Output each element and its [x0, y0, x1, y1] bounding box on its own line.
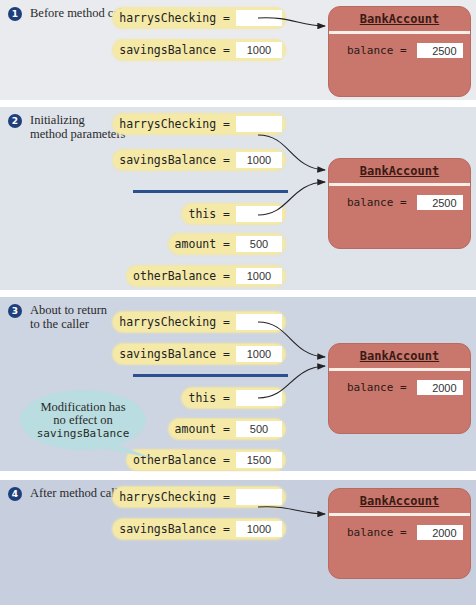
stack-frame-divider [133, 374, 288, 377]
var-value [236, 10, 282, 26]
var-name: otherBalance = [127, 269, 236, 283]
field-value: 2000 [417, 525, 463, 540]
step-3-caption: About to return to the caller [30, 303, 107, 331]
caption-line: method parameters [30, 127, 125, 141]
var-value [236, 206, 282, 222]
var-value: 1000 [236, 268, 282, 284]
field-name: balance = [347, 526, 407, 539]
object-title: BankAccount [329, 159, 470, 183]
bankaccount-object: BankAccount balance = 2500 [328, 6, 471, 97]
var-name: savingsBalance = [113, 522, 236, 536]
var-amount: amount = 500 [169, 419, 285, 439]
step-number-badge: 4 [8, 487, 22, 501]
callout-bubble: Modification has no effect on savingsBal… [20, 390, 146, 450]
var-name: harrysChecking = [113, 117, 236, 131]
object-title: BankAccount [329, 489, 470, 513]
var-value [236, 390, 282, 406]
var-value: 500 [236, 421, 282, 437]
field-name: balance = [347, 381, 407, 394]
var-otherBalance: otherBalance = 1000 [127, 266, 285, 286]
var-value [236, 314, 282, 330]
var-value: 500 [236, 236, 282, 252]
step-4-label: 4 After method call [8, 486, 118, 501]
object-separator [329, 513, 470, 516]
step-4-caption: After method call [30, 486, 118, 500]
var-name: amount = [169, 237, 236, 251]
field-name: balance = [347, 44, 407, 57]
var-value [236, 116, 282, 132]
bankaccount-object: BankAccount balance = 2000 [328, 343, 471, 434]
field-value: 2500 [417, 43, 463, 58]
bankaccount-object: BankAccount balance = 2000 [328, 488, 471, 579]
var-amount: amount = 500 [169, 234, 285, 254]
var-name: this = [182, 207, 236, 221]
caption-line: to the caller [30, 317, 89, 331]
var-name: harrysChecking = [113, 315, 236, 329]
var-name: harrysChecking = [113, 490, 236, 504]
callout-line: no effect on [53, 414, 112, 427]
stack-frame-divider [133, 190, 288, 193]
var-savingsBalance: savingsBalance = 1000 [113, 519, 285, 539]
callout-line: Modification has [40, 401, 125, 414]
var-name: harrysChecking = [113, 11, 236, 25]
var-savingsBalance: savingsBalance = 1000 [113, 40, 285, 60]
var-name: amount = [169, 422, 236, 436]
var-name: savingsBalance = [113, 43, 236, 57]
var-name: savingsBalance = [113, 347, 236, 361]
var-value [236, 489, 282, 505]
object-separator [329, 31, 470, 34]
balance-field: balance = 2000 [347, 525, 463, 540]
var-value: 1000 [236, 42, 282, 58]
field-value: 2500 [417, 195, 463, 210]
step-1-panel: 1 Before method call harrysChecking = sa… [0, 0, 476, 100]
var-this: this = [182, 204, 285, 224]
var-otherBalance: otherBalance = 1500 [127, 450, 285, 470]
step-number-badge: 1 [8, 7, 22, 21]
var-harrysChecking: harrysChecking = [113, 312, 285, 332]
callout-line: savingsBalance [37, 427, 130, 440]
var-value: 1000 [236, 152, 282, 168]
step-3-label: 3 About to return to the caller [8, 303, 107, 331]
var-harrysChecking: harrysChecking = [113, 8, 285, 28]
object-title: BankAccount [329, 344, 470, 368]
var-name: otherBalance = [127, 453, 236, 467]
object-separator [329, 368, 470, 371]
step-1-label: 1 Before method call [8, 6, 126, 21]
var-this: this = [182, 388, 285, 408]
object-separator [329, 183, 470, 186]
balance-field: balance = 2500 [347, 195, 463, 210]
field-name: balance = [347, 196, 407, 209]
step-1-caption: Before method call [30, 6, 126, 20]
var-value: 1500 [236, 452, 282, 468]
var-savingsBalance: savingsBalance = 1000 [113, 150, 285, 170]
var-harrysChecking: harrysChecking = [113, 114, 285, 134]
step-4-panel: 4 After method call harrysChecking = sav… [0, 480, 476, 605]
step-number-badge: 2 [8, 114, 22, 128]
balance-field: balance = 2500 [347, 43, 463, 58]
caption-line: Initializing [30, 113, 85, 127]
object-title: BankAccount [329, 7, 470, 31]
var-savingsBalance: savingsBalance = 1000 [113, 344, 285, 364]
var-name: this = [182, 391, 236, 405]
var-value: 1000 [236, 346, 282, 362]
step-2-caption: Initializing method parameters [30, 113, 125, 141]
var-harrysChecking: harrysChecking = [113, 487, 285, 507]
step-2-label: 2 Initializing method parameters [8, 113, 125, 141]
field-value: 2000 [417, 380, 463, 395]
var-value: 1000 [236, 521, 282, 537]
step-2-panel: 2 Initializing method parameters harrysC… [0, 107, 476, 290]
var-name: savingsBalance = [113, 153, 236, 167]
step-number-badge: 3 [8, 304, 22, 318]
bankaccount-object: BankAccount balance = 2500 [328, 158, 471, 249]
caption-line: About to return [30, 303, 107, 317]
balance-field: balance = 2000 [347, 380, 463, 395]
